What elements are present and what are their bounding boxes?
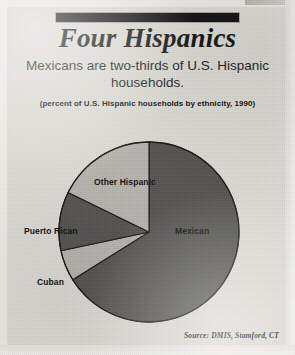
- newspaper-clipping: Four Hispanics Mexicans are two-thirds o…: [0, 0, 295, 355]
- scan-corner-mark: [245, 0, 285, 5]
- pie-slice-group: [59, 142, 239, 322]
- pie-chart: Other Hispanic Puerto Rican Cuban Mexica…: [0, 0, 295, 355]
- pie-label-other-hispanic: Other Hispanic: [94, 177, 156, 187]
- pie-label-mexican: Mexican: [175, 226, 209, 236]
- source-attribution: Source: DMIS, Stamford, CT: [184, 331, 279, 341]
- pie-label-puerto-rican: Puerto Rican: [24, 226, 78, 236]
- pie-label-cuban: Cuban: [37, 277, 64, 287]
